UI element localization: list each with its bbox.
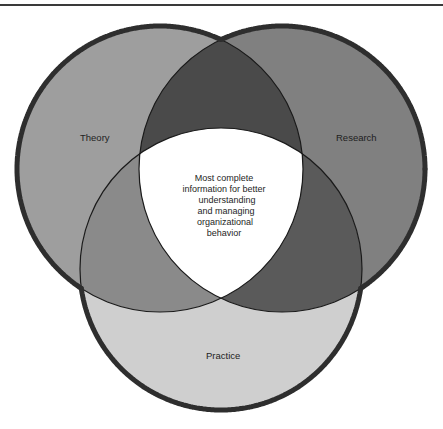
center-line: organizational xyxy=(197,217,253,227)
center-line: information for better xyxy=(182,184,265,194)
venn-diagram: Theory Research Practice Most complete i… xyxy=(0,0,443,429)
label-practice: Practice xyxy=(206,350,240,361)
label-research: Research xyxy=(336,132,377,143)
center-line: behavior xyxy=(207,228,242,238)
center-line: and managing xyxy=(197,206,254,216)
center-line: Most complete xyxy=(195,173,254,183)
center-line: understanding xyxy=(198,195,255,205)
label-theory: Theory xyxy=(80,132,110,143)
